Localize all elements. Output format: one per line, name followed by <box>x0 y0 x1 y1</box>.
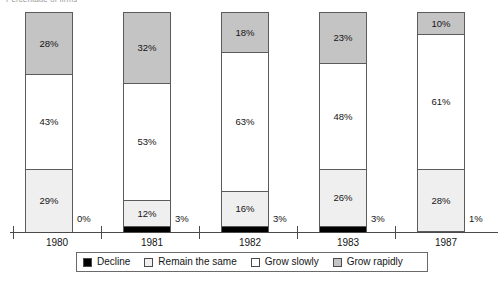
axis-tick-2 <box>199 226 200 239</box>
segment-grow-rapidly[interactable]: 28% <box>25 12 73 74</box>
legend-swatch-grow-slowly-icon <box>251 258 260 267</box>
segment-value-label-decline-1980: 0% <box>77 213 91 224</box>
segment-grow-rapidly[interactable]: 23% <box>319 12 367 63</box>
segment-grow-rapidly[interactable]: 10% <box>417 12 465 34</box>
legend-swatch-decline-icon <box>83 258 92 267</box>
segment-remain-the-same[interactable]: 29% <box>25 169 73 233</box>
stacked-bar[interactable]: 23% 48% 26% <box>319 12 367 233</box>
bar-group-1982: 18% 63% 16% <box>221 12 269 233</box>
segment-grow-rapidly[interactable]: 32% <box>123 12 171 83</box>
segment-value-label: 16% <box>235 204 254 214</box>
stacked-bar[interactable]: 32% 53% 12% <box>123 12 171 233</box>
stacked-bar[interactable]: 28% 43% 29% <box>25 12 73 233</box>
bar-group-1987: 10% 61% 28% <box>417 12 465 233</box>
legend-swatch-grow-rapidly-icon <box>333 258 342 267</box>
segment-value-label: 53% <box>137 137 156 147</box>
legend-label: Decline <box>97 257 130 267</box>
segment-value-label: 28% <box>39 39 58 49</box>
legend-item-grow-rapidly[interactable]: Grow rapidly <box>333 257 403 267</box>
segment-grow-slowly[interactable]: 48% <box>319 63 367 169</box>
segment-value-label: 28% <box>431 196 450 206</box>
axis-label-1983: 1983 <box>318 237 378 248</box>
segment-remain-the-same[interactable]: 26% <box>319 169 367 226</box>
segment-value-label: 10% <box>431 19 450 29</box>
segment-remain-the-same[interactable]: 12% <box>123 200 171 227</box>
axis-label-1982: 1982 <box>220 237 280 248</box>
segment-value-label: 48% <box>333 112 352 122</box>
segment-remain-the-same[interactable]: 16% <box>221 191 269 226</box>
legend-label: Remain the same <box>158 257 236 267</box>
legend-label: Grow slowly <box>265 257 319 267</box>
bar-group-1980: 28% 43% 29% <box>25 12 73 233</box>
legend-item-decline[interactable]: Decline <box>83 257 130 267</box>
legend-item-grow-slowly[interactable]: Grow slowly <box>251 257 319 267</box>
axis-tick-4 <box>395 226 396 239</box>
legend-item-remain-the-same[interactable]: Remain the same <box>144 257 236 267</box>
segment-value-label: 18% <box>235 28 254 38</box>
segment-grow-slowly[interactable]: 53% <box>123 83 171 200</box>
plot-area: 28% 43% 29% 0% 32% 53% 12% <box>0 0 504 233</box>
segment-value-label: 23% <box>333 33 352 43</box>
segment-value-label: 12% <box>137 209 156 219</box>
axis-tick-start <box>13 226 14 239</box>
segment-value-label: 63% <box>235 117 254 127</box>
legend-swatch-remain-the-same-icon <box>144 258 153 267</box>
bar-group-1981: 32% 53% 12% <box>123 12 171 233</box>
segment-grow-slowly[interactable]: 63% <box>221 52 269 191</box>
axis-label-1987: 1987 <box>416 237 476 248</box>
bar-group-1983: 23% 48% 26% <box>319 12 367 233</box>
x-axis-line <box>10 232 498 233</box>
segment-grow-slowly[interactable]: 43% <box>25 74 73 169</box>
segment-value-label-decline-1983: 3% <box>371 213 385 224</box>
segment-value-label: 61% <box>431 97 450 107</box>
axis-tick-3 <box>297 226 298 239</box>
axis-label-1981: 1981 <box>122 237 182 248</box>
chart-legend: Decline Remain the same Grow slowly Grow… <box>76 252 428 272</box>
segment-value-label-decline-1981: 3% <box>175 213 189 224</box>
axis-tick-1 <box>101 226 102 239</box>
stacked-bar[interactable]: 18% 63% 16% <box>221 12 269 233</box>
segment-grow-rapidly[interactable]: 18% <box>221 12 269 52</box>
legend-label: Grow rapidly <box>347 257 403 267</box>
stacked-bar-chart: Percentage of firms 28% 43% 29% 0% 32% <box>0 0 504 285</box>
segment-value-label: 32% <box>137 43 156 53</box>
segment-value-label-decline-1987: 1% <box>469 213 483 224</box>
stacked-bar[interactable]: 10% 61% 28% <box>417 12 465 233</box>
segment-value-label-decline-1982: 3% <box>273 213 287 224</box>
segment-remain-the-same[interactable]: 28% <box>417 169 465 231</box>
segment-value-label: 26% <box>333 193 352 203</box>
segment-value-label: 29% <box>39 196 58 206</box>
axis-label-1980: 1980 <box>27 237 87 248</box>
segment-grow-slowly[interactable]: 61% <box>417 34 465 169</box>
segment-value-label: 43% <box>39 117 58 127</box>
